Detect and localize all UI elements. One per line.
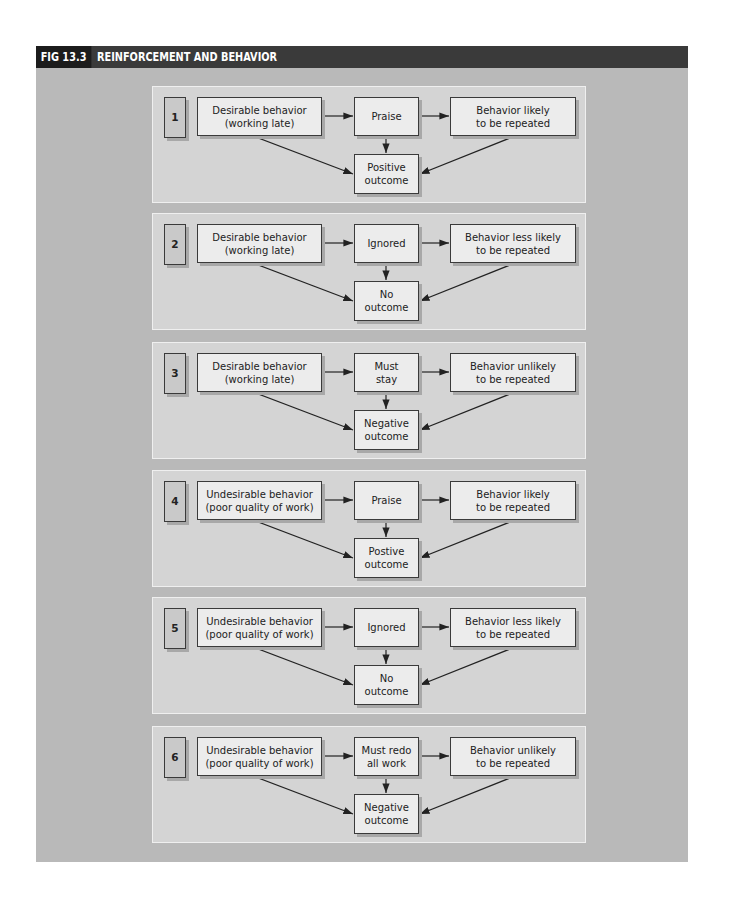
- response-box: Ignored: [354, 224, 419, 263]
- outcome-box: No outcome: [354, 665, 419, 705]
- behavior-box: Undesirable behavior (poor quality of wo…: [197, 608, 322, 647]
- scenario-number: 3: [164, 353, 186, 394]
- behavior-box: Desirable behavior (working late): [197, 224, 322, 263]
- scenario-panel-3: 3 Desirable behavior (working late) Must…: [152, 342, 586, 459]
- figure-header: FIG 13.3 REINFORCEMENT AND BEHAVIOR: [36, 46, 688, 68]
- result-box: Behavior unlikely to be repeated: [450, 737, 576, 776]
- response-box: Praise: [354, 97, 419, 136]
- response-box: Ignored: [354, 608, 419, 647]
- scenario-panel-2: 2 Desirable behavior (working late) Igno…: [152, 213, 586, 330]
- scenario-panel-1: 1 Desirable behavior (working late) Prai…: [152, 86, 586, 203]
- outcome-box: Negative outcome: [354, 410, 419, 450]
- outcome-box: No outcome: [354, 281, 419, 321]
- outcome-box: Postive outcome: [354, 538, 419, 578]
- scenario-number: 1: [164, 97, 186, 138]
- result-box: Behavior unlikely to be repeated: [450, 353, 576, 392]
- scenario-panel-4: 4 Undesirable behavior (poor quality of …: [152, 470, 586, 587]
- scenario-panel-6: 6 Undesirable behavior (poor quality of …: [152, 726, 586, 843]
- response-box: Praise: [354, 481, 419, 520]
- outcome-box: Negative outcome: [354, 794, 419, 834]
- figure: FIG 13.3 REINFORCEMENT AND BEHAVIOR 1 De…: [36, 46, 688, 862]
- response-box: Must stay: [354, 353, 419, 392]
- result-box: Behavior likely to be repeated: [450, 481, 576, 520]
- behavior-box: Undesirable behavior (poor quality of wo…: [197, 737, 322, 776]
- scenario-number: 5: [164, 608, 186, 649]
- behavior-box: Desirable behavior (working late): [197, 97, 322, 136]
- result-box: Behavior less likely to be repeated: [450, 608, 576, 647]
- result-box: Behavior likely to be repeated: [450, 97, 576, 136]
- scenario-number: 4: [164, 481, 186, 522]
- outcome-box: Positive outcome: [354, 154, 419, 194]
- result-box: Behavior less likely to be repeated: [450, 224, 576, 263]
- figure-title: REINFORCEMENT AND BEHAVIOR: [97, 46, 277, 68]
- response-box: Must redo all work: [354, 737, 419, 776]
- scenario-number: 2: [164, 224, 186, 265]
- behavior-box: Undesirable behavior (poor quality of wo…: [197, 481, 322, 520]
- behavior-box: Desirable behavior (working late): [197, 353, 322, 392]
- figure-number: FIG 13.3: [36, 46, 91, 68]
- scenario-panel-5: 5 Undesirable behavior (poor quality of …: [152, 597, 586, 714]
- scenario-number: 6: [164, 737, 186, 778]
